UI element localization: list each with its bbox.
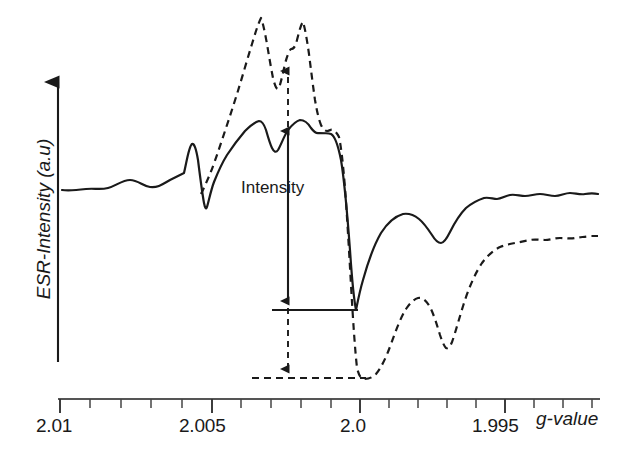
- x-tick-label-2.005: 2.005: [179, 415, 226, 437]
- plot-canvas: [0, 0, 637, 469]
- intensity-annotation-label: Intensity: [241, 178, 304, 198]
- x-tick-label-2.0: 2.0: [340, 415, 366, 437]
- esr-spectrum-figure: 2.01 2.005 2.0 1.995 g-value ESR-Intensi…: [0, 0, 637, 469]
- solid-spectrum-curve: [62, 120, 598, 310]
- x-tick-label-2.01: 2.01: [36, 415, 72, 437]
- x-axis-minor-ticks: [90, 399, 592, 408]
- x-axis-title: g-value: [536, 408, 598, 430]
- x-tick-label-1.995: 1.995: [472, 415, 519, 437]
- x-axis-major-ticks: [60, 399, 505, 413]
- dashed-spectrum-curve: [201, 18, 598, 379]
- y-axis-title: ESR-Intensity (a.u): [33, 89, 55, 349]
